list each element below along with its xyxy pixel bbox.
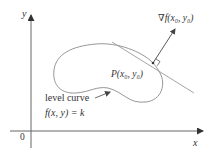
right-angle-marker: [156, 59, 160, 66]
gradient-arrow: [153, 29, 175, 63]
tangent-line: [112, 42, 194, 93]
level-curve-pointer: [95, 92, 110, 98]
diagram-canvas: y x 0 ∇f(x₀, y₀) P(x₀, y₀) level curve f…: [0, 0, 217, 158]
origin-label: 0: [20, 132, 25, 142]
gradient-label: ∇f(x₀, y₀): [158, 13, 193, 24]
x-axis-label: x: [192, 137, 198, 148]
point-label: P(x₀, y₀): [110, 69, 143, 80]
level-curve-equation: f(x, y) = k: [45, 107, 85, 119]
y-axis-label: y: [21, 8, 27, 19]
level-curve-label: level curve: [45, 92, 90, 103]
point-p: [152, 62, 155, 65]
